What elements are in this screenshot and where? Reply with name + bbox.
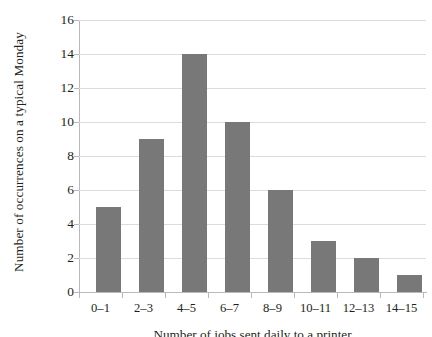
x-tickmark-2	[165, 293, 166, 298]
bar-6-7	[225, 122, 250, 292]
y-tick-label-4: 4	[34, 217, 74, 230]
bars-layer	[79, 20, 426, 292]
y-tick-label-10: 10	[34, 115, 74, 128]
x-tickmark-8	[423, 293, 424, 298]
y-tick-label-2: 2	[34, 251, 74, 264]
y-tick-label-0: 0	[34, 285, 74, 298]
x-tick-label-0-1: 0–1	[79, 301, 122, 315]
x-axis-line	[79, 292, 427, 293]
x-tickmark-0	[79, 293, 80, 298]
y-tick-label-8: 8	[34, 149, 74, 162]
bar-8-9	[268, 190, 293, 292]
x-tickmark-1	[122, 293, 123, 298]
bar-chart: Number of occurrences on a typical Monda…	[0, 0, 432, 337]
bar-12-13	[354, 258, 379, 292]
x-tickmark-3	[208, 293, 209, 298]
x-tickmark-7	[380, 293, 381, 298]
y-tick-label-12: 12	[34, 81, 74, 94]
bar-2-3	[139, 139, 164, 292]
x-tickmark-4	[251, 293, 252, 298]
x-tick-label-10-11: 10–11	[294, 301, 337, 315]
x-tick-label-6-7: 6–7	[208, 301, 251, 315]
x-tickmark-5	[294, 293, 295, 298]
y-tick-label-6: 6	[34, 183, 74, 196]
bar-4-5	[182, 54, 207, 292]
y-axis-ticks: 16 14 12 10 8 6 4 2 0	[0, 0, 74, 337]
x-axis-title: Number of jobs sent daily to a printer	[79, 327, 426, 337]
x-tick-label-12-13: 12–13	[337, 301, 380, 315]
bar-10-11	[311, 241, 336, 292]
x-tick-label-4-5: 4–5	[165, 301, 208, 315]
x-tickmark-6	[337, 293, 338, 298]
bar-0-1	[96, 207, 121, 292]
y-tick-label-14: 14	[34, 47, 74, 60]
x-tick-label-14-15: 14–15	[380, 301, 423, 315]
y-tick-label-16: 16	[34, 13, 74, 26]
x-tick-label-8-9: 8–9	[251, 301, 294, 315]
x-tick-label-2-3: 2–3	[122, 301, 165, 315]
bar-14-15	[397, 275, 422, 292]
